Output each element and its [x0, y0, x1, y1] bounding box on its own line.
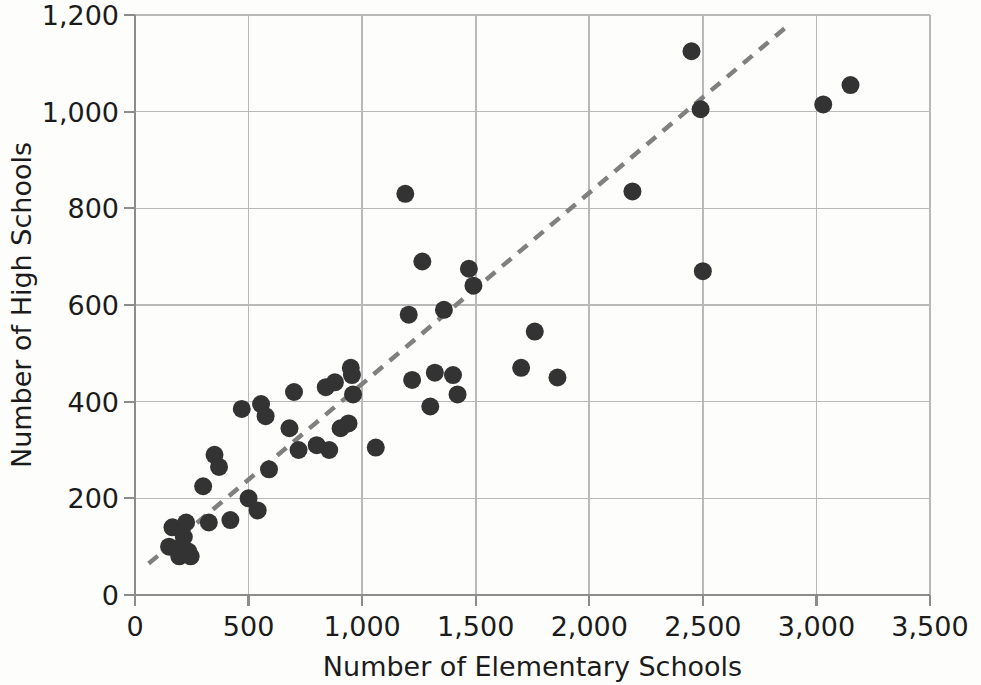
y-tick-label-600: 600: [67, 290, 119, 321]
data-point: [400, 306, 418, 324]
y-tick-label-400: 400: [67, 386, 119, 417]
data-points: [160, 42, 859, 565]
data-point: [692, 100, 710, 118]
x-tick-label-1000: 1,000: [323, 611, 400, 642]
y-axis-title: Number of High Schools: [6, 142, 37, 468]
data-point: [548, 369, 566, 387]
y-tick-label-1200: 1,200: [42, 0, 119, 31]
data-point: [403, 371, 421, 389]
data-point: [449, 385, 467, 403]
x-tick-label-3500: 3,500: [891, 611, 968, 642]
data-point: [290, 441, 308, 459]
data-point: [444, 366, 462, 384]
y-tick-label-800: 800: [67, 193, 119, 224]
x-tick-label-2000: 2,000: [551, 611, 628, 642]
data-point: [326, 373, 344, 391]
data-point: [396, 185, 414, 203]
data-point: [421, 398, 439, 416]
x-tick-label-2500: 2,500: [664, 611, 741, 642]
data-point: [512, 359, 530, 377]
data-point: [464, 277, 482, 295]
tick-marks: [124, 15, 930, 606]
data-point: [194, 477, 212, 495]
data-point: [623, 182, 641, 200]
y-tick-label-1000: 1,000: [42, 96, 119, 127]
data-point: [435, 301, 453, 319]
data-point: [177, 514, 195, 532]
data-point: [280, 419, 298, 437]
scatter-chart: 02004006008001,0001,200 05001,0001,5002,…: [0, 0, 981, 685]
x-tick-label-1500: 1,500: [437, 611, 514, 642]
data-point: [413, 253, 431, 271]
data-point: [683, 42, 701, 60]
x-tick-label-0: 0: [126, 611, 143, 642]
data-point: [257, 407, 275, 425]
data-point: [526, 323, 544, 341]
data-point: [344, 385, 362, 403]
data-point: [460, 260, 478, 278]
data-point: [340, 414, 358, 432]
data-point: [221, 511, 239, 529]
data-point: [842, 76, 860, 94]
horizontal-gridlines: [135, 15, 930, 498]
data-point: [343, 366, 361, 384]
data-point: [367, 439, 385, 457]
data-point: [285, 383, 303, 401]
data-point: [182, 547, 200, 565]
x-tick-label-500: 500: [223, 611, 275, 642]
plot-canvas: [0, 0, 981, 685]
data-point: [426, 364, 444, 382]
data-point: [249, 501, 267, 519]
data-point: [260, 460, 278, 478]
x-axis-title: Number of Elementary Schools: [42, 651, 981, 682]
data-point: [320, 441, 338, 459]
data-point: [814, 95, 832, 113]
y-tick-label-200: 200: [67, 483, 119, 514]
data-point: [200, 514, 218, 532]
data-point: [233, 400, 251, 418]
y-tick-label-0: 0: [102, 580, 119, 611]
data-point: [694, 262, 712, 280]
x-tick-label-3000: 3,000: [778, 611, 855, 642]
data-point: [210, 458, 228, 476]
